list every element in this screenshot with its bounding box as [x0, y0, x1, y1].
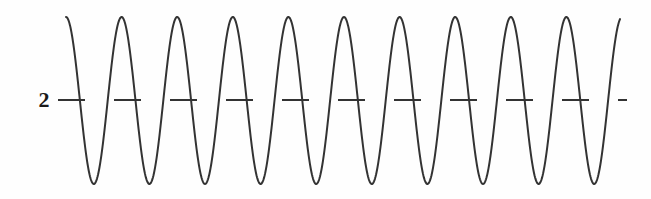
y-axis-tick-label: 2 [33, 86, 55, 114]
waveform-plot [0, 0, 651, 199]
waveform-figure: 2 [0, 0, 651, 199]
